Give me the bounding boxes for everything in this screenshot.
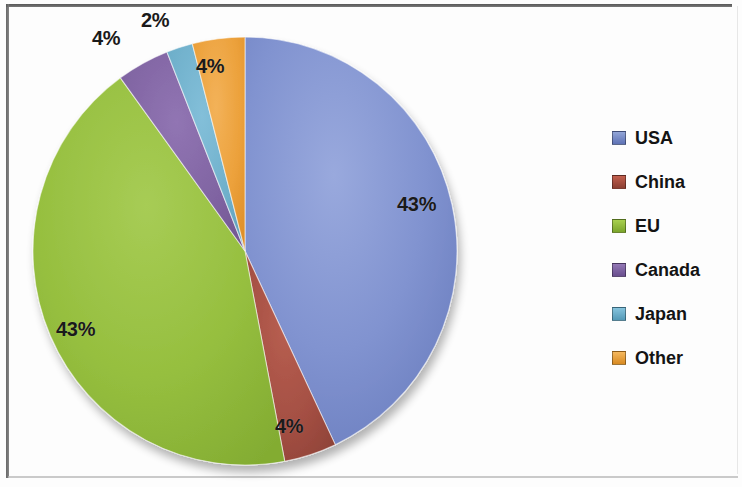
legend-item-japan[interactable]: Japan <box>612 292 740 336</box>
slice-label-china: 4% <box>275 415 303 438</box>
legend-item-eu[interactable]: EU <box>612 204 740 248</box>
chart-legend: USA China EU Canada Japan Other <box>612 116 740 380</box>
legend-swatch-eu-icon <box>612 219 626 233</box>
legend-label-usa: USA <box>635 129 673 147</box>
legend-swatch-other-icon <box>612 351 626 365</box>
legend-label-china: China <box>635 173 685 191</box>
slice-label-other: 4% <box>196 55 224 78</box>
slice-label-japan: 2% <box>141 9 169 32</box>
legend-label-other: Other <box>635 349 683 367</box>
legend-label-japan: Japan <box>635 305 687 323</box>
slice-label-canada: 4% <box>92 27 120 50</box>
legend-swatch-china-icon <box>612 175 626 189</box>
legend-item-usa[interactable]: USA <box>612 116 740 160</box>
legend-swatch-canada-icon <box>612 263 626 277</box>
legend-item-china[interactable]: China <box>612 160 740 204</box>
slice-label-usa: 43% <box>397 193 436 216</box>
legend-label-eu: EU <box>635 217 660 235</box>
legend-label-canada: Canada <box>635 261 700 279</box>
legend-item-canada[interactable]: Canada <box>612 248 740 292</box>
legend-swatch-usa-icon <box>612 131 626 145</box>
legend-item-other[interactable]: Other <box>612 336 740 380</box>
slice-label-eu: 43% <box>56 318 95 341</box>
legend-swatch-japan-icon <box>612 307 626 321</box>
chart-canvas: 43% 4% 43% 4% 2% 4% USA China EU Canada … <box>0 0 742 487</box>
